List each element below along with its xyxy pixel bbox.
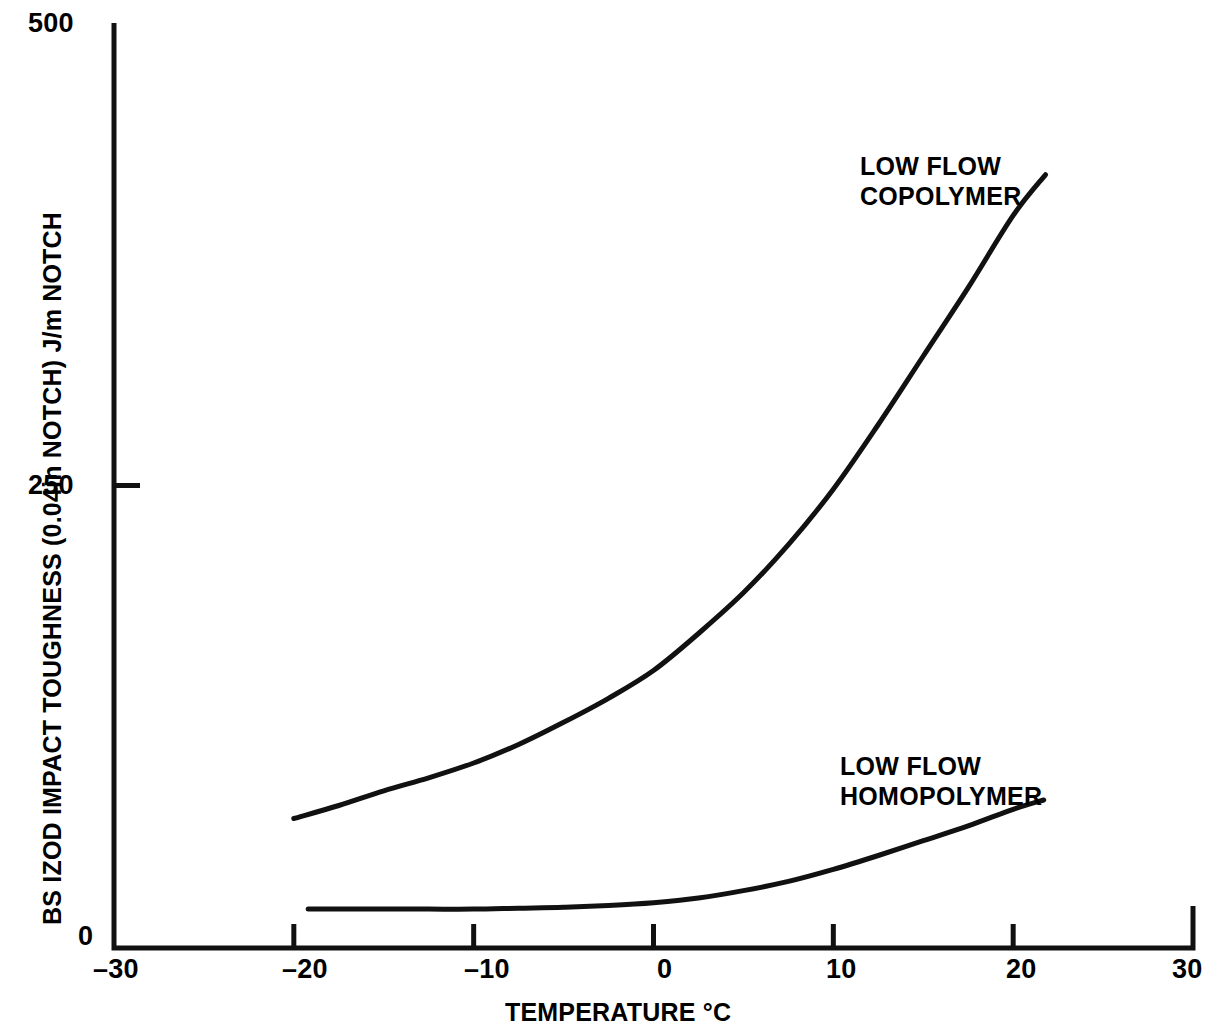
x-tick-label-20: 20 (1006, 954, 1036, 985)
x-tick-label-neg10: –10 (464, 954, 510, 985)
series-label-homopolymer: LOW FLOW HOMOPOLYMER (840, 752, 1042, 811)
x-tick-label-10: 10 (826, 954, 856, 985)
x-tick-label-30: 30 (1172, 954, 1202, 985)
x-axis-title: TEMPERATURE °C (505, 998, 731, 1027)
chart-figure: 500 250 0 –30 –20 –10 0 10 20 30 TEMPERA… (0, 0, 1210, 1035)
plot-svg (0, 0, 1210, 1035)
x-tick-label-0: 0 (657, 954, 672, 985)
series-label-copolymer: LOW FLOW COPOLYMER (860, 152, 1022, 211)
y-axis-title: BS IZOD IMPACT TOUGHNESS (0.04in NOTCH) … (38, 212, 67, 925)
x-axis-ticks (294, 924, 1013, 948)
x-tick-label-neg20: –20 (282, 954, 328, 985)
x-tick-label-neg30: –30 (93, 954, 139, 985)
series-curve (308, 800, 1043, 909)
y-axis-title-wrap: BS IZOD IMPACT TOUGHNESS (0.04in NOTCH) … (8, 0, 48, 1035)
y-tick-label-0: 0 (78, 921, 93, 952)
series-curve (294, 175, 1046, 819)
